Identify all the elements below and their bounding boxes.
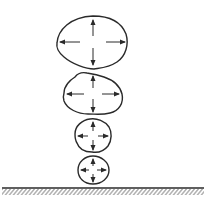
drop-4 [78, 156, 109, 184]
ground-hatching [2, 189, 204, 195]
diagram-canvas [0, 0, 208, 198]
drop-2 [63, 73, 122, 115]
ground-surface [2, 188, 204, 195]
drop-3 [75, 119, 111, 152]
drops-diagram [0, 0, 208, 198]
drop-1 [57, 16, 127, 69]
